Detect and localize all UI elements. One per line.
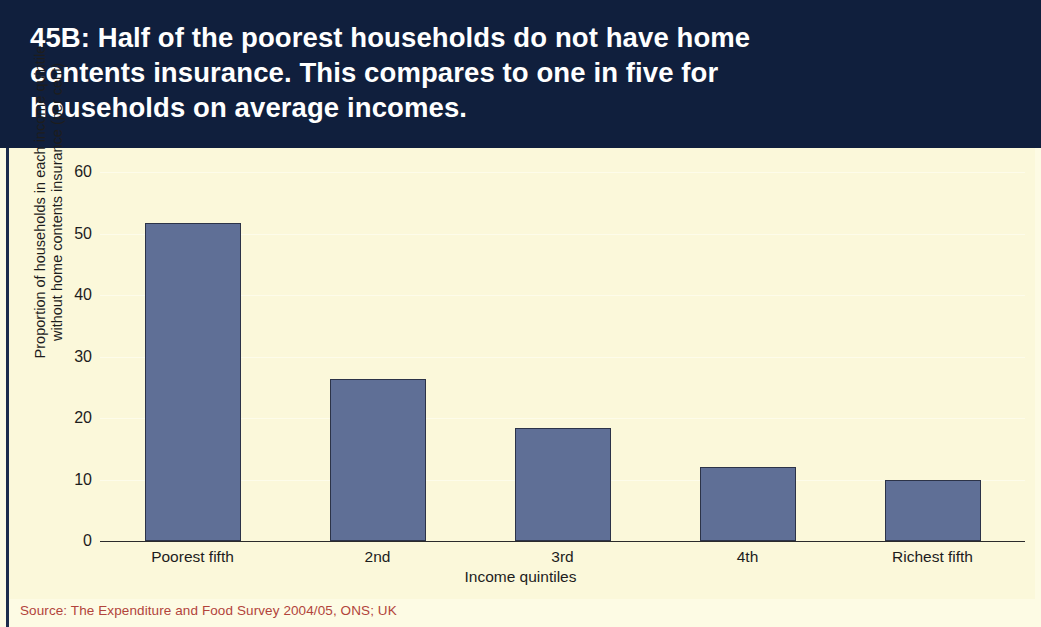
y-axis-tick-label: 20 xyxy=(52,410,92,426)
y-axis-tick-label: 30 xyxy=(52,349,92,365)
x-axis-tick-label: 4th xyxy=(655,548,840,566)
bar xyxy=(885,480,981,541)
y-axis-tick-label: 0 xyxy=(52,533,92,549)
x-axis-title: Income quintiles xyxy=(0,568,1041,586)
y-axis-tick-label: 40 xyxy=(52,287,92,303)
bar xyxy=(515,428,611,541)
y-axis-tick-labels: 0102030405060 xyxy=(48,172,92,541)
plot-area xyxy=(100,172,1025,541)
source-note: Source: The Expenditure and Food Survey … xyxy=(20,603,397,618)
bar xyxy=(330,379,426,541)
x-axis-tick-label: Richest fifth xyxy=(840,548,1025,566)
gridline xyxy=(100,172,1025,173)
x-axis-tick-label: Poorest fifth xyxy=(100,548,285,566)
x-axis-tick-label: 2nd xyxy=(285,548,470,566)
header-banner: 45B: Half of the poorest households do n… xyxy=(0,0,1041,148)
x-axis-tick-label: 3rd xyxy=(470,548,655,566)
y-axis-tick-label: 10 xyxy=(52,472,92,488)
page-title: 45B: Half of the poorest households do n… xyxy=(30,20,990,125)
axis-baseline xyxy=(100,541,1025,542)
figure-45b: 45B: Half of the poorest households do n… xyxy=(0,0,1041,627)
y-axis-tick-label: 50 xyxy=(52,226,92,242)
bar xyxy=(145,223,241,541)
bar xyxy=(700,467,796,541)
y-axis-tick-label: 60 xyxy=(52,164,92,180)
